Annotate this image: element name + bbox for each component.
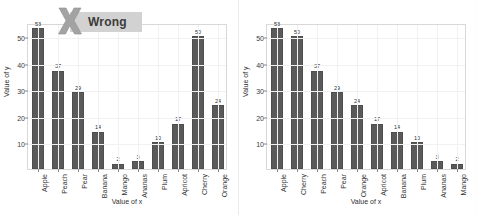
gridline-vertical [38, 25, 39, 169]
x-tick-mark [417, 169, 418, 172]
x-tick-mark [198, 169, 199, 172]
y-tick-mark [264, 117, 267, 118]
x-axis-title-wrong: Value of x [27, 198, 227, 205]
y-tick-label: 30 [17, 88, 25, 95]
y-tick-label: 30 [256, 88, 264, 95]
y-tick-label: 10 [17, 141, 25, 148]
x-tick-label: Orange [221, 174, 228, 197]
x-tick-mark [337, 169, 338, 172]
gridline-vertical [58, 25, 59, 169]
y-tick-label: 50 [256, 35, 264, 42]
gridline-vertical [397, 25, 398, 169]
gridline-vertical [317, 25, 318, 169]
gridline-vertical [337, 25, 338, 169]
x-tick-label: Cherry [300, 174, 307, 195]
y-tick-mark [264, 144, 267, 145]
x-tick-mark [118, 169, 119, 172]
x-tick-label: Mango [460, 174, 467, 195]
x-tick-label: Apple [280, 174, 287, 192]
x-tick-mark [457, 169, 458, 172]
y-tick-label: 50 [17, 35, 25, 42]
gridline-vertical [357, 25, 358, 169]
chart-panel-wrong: Wrong 533729142310175024 1020304050Apple… [0, 0, 238, 215]
gridline-vertical [98, 25, 99, 169]
x-tick-mark [297, 169, 298, 172]
x-tick-label: Orange [360, 174, 367, 197]
x-tick-label: Pear [81, 174, 88, 189]
x-tick-mark [38, 169, 39, 172]
gridline-vertical [138, 25, 139, 169]
y-tick-label: 10 [256, 141, 264, 148]
gridline-vertical [118, 25, 119, 169]
plot-area-wrong: 533729142310175024 1020304050ApplePeachP… [27, 24, 227, 170]
gridline-vertical [457, 25, 458, 169]
y-tick-mark [25, 144, 28, 145]
x-tick-label: Peach [61, 174, 68, 194]
x-tick-mark [78, 169, 79, 172]
x-tick-mark [377, 169, 378, 172]
x-tick-mark [58, 169, 59, 172]
x-tick-label: Banana [400, 174, 407, 198]
gridline-vertical [218, 25, 219, 169]
x-tick-label: Mango [121, 174, 128, 195]
x-tick-label: Banana [101, 174, 108, 198]
x-tick-label: Apricot [181, 174, 188, 196]
x-tick-label: Plum [420, 174, 427, 190]
x-tick-label: Cherry [201, 174, 208, 195]
x-tick-mark [158, 169, 159, 172]
x-tick-label: Ananas [141, 174, 148, 198]
gridline-vertical [178, 25, 179, 169]
gridline-vertical [417, 25, 418, 169]
x-tick-label: Apple [41, 174, 48, 192]
gridline-vertical [297, 25, 298, 169]
y-tick-mark [25, 117, 28, 118]
x-tick-label: Plum [161, 174, 168, 190]
comparison-figure: Wrong 533729142310175024 1020304050Apple… [0, 0, 477, 215]
gridline-vertical [198, 25, 199, 169]
y-tick-label: 40 [17, 61, 25, 68]
x-tick-label: Peach [320, 174, 327, 194]
x-tick-label: Apricot [380, 174, 387, 196]
y-tick-mark [25, 38, 28, 39]
x-tick-mark [357, 169, 358, 172]
x-tick-mark [138, 169, 139, 172]
y-tick-mark [25, 64, 28, 65]
y-axis-title-correct: Value of y [242, 66, 249, 97]
gridline-vertical [437, 25, 438, 169]
y-tick-mark [264, 91, 267, 92]
x-tick-label: Pear [340, 174, 347, 189]
y-tick-mark [25, 91, 28, 92]
x-tick-mark [178, 169, 179, 172]
x-tick-mark [397, 169, 398, 172]
y-tick-mark [264, 64, 267, 65]
x-tick-label: Ananas [440, 174, 447, 198]
chart-panel-correct: Correct 535037292417141032 1020304050App… [238, 0, 476, 215]
x-axis-title-correct: Value of x [266, 198, 466, 205]
x-tick-mark [317, 169, 318, 172]
gridline-vertical [377, 25, 378, 169]
banner-wrong-label: Wrong [88, 15, 127, 29]
y-tick-label: 20 [256, 114, 264, 121]
gridline-vertical [277, 25, 278, 169]
y-tick-label: 40 [256, 61, 264, 68]
plot-area-correct: 535037292417141032 1020304050AppleCherry… [266, 24, 466, 170]
x-tick-mark [277, 169, 278, 172]
gridline-vertical [158, 25, 159, 169]
banner-wrong: Wrong [70, 12, 142, 32]
y-tick-label: 20 [17, 114, 25, 121]
x-tick-mark [437, 169, 438, 172]
x-tick-mark [218, 169, 219, 172]
x-tick-mark [98, 169, 99, 172]
y-axis-title-wrong: Value of y [3, 66, 10, 97]
y-tick-mark [264, 38, 267, 39]
gridline-vertical [78, 25, 79, 169]
